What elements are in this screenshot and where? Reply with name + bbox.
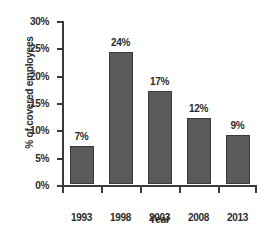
y-tick-20: 20% — [57, 76, 62, 78]
x-tick-boundary-1 — [101, 187, 103, 193]
y-tick-10: 10% — [57, 130, 62, 132]
bar-chart: % of covered employees 30% 25% 20% 15% — [0, 0, 266, 240]
y-tick-5: 5% — [57, 158, 62, 160]
x-axis-line — [62, 185, 257, 187]
bar-value-1998: 24% — [111, 37, 130, 48]
y-tick-25: 25% — [57, 48, 62, 50]
bar-1993[interactable] — [70, 146, 94, 185]
y-tick-label-30: 30% — [30, 16, 49, 27]
plot-area: 30% 25% 20% 15% 10% 5% — [62, 21, 257, 186]
bar-value-2013: 9% — [231, 120, 245, 131]
y-axis-line — [62, 21, 64, 187]
y-tick-label-15: 15% — [30, 98, 49, 109]
bar-value-2008: 12% — [189, 103, 208, 114]
bar-2013[interactable] — [226, 135, 250, 185]
x-tick-boundary-2 — [140, 187, 142, 193]
bar-2003[interactable] — [148, 91, 172, 185]
y-tick-30: 30% — [57, 21, 62, 23]
bar-1998[interactable] — [109, 52, 133, 184]
x-tick-boundary-4 — [218, 187, 220, 193]
y-tick-label-20: 20% — [30, 70, 49, 81]
y-tick-label-5: 5% — [35, 152, 49, 163]
y-axis-title: % of covered employees — [24, 13, 35, 173]
y-tick-label-10: 10% — [30, 125, 49, 136]
bar-value-1993: 7% — [75, 131, 89, 142]
x-tick-boundary-3 — [179, 187, 181, 193]
x-tick-boundary-0 — [62, 187, 64, 193]
y-tick-label-25: 25% — [30, 43, 49, 54]
bar-2008[interactable] — [187, 118, 211, 184]
y-tick-label-0: 0% — [35, 180, 49, 191]
x-axis-title: Year — [62, 214, 257, 225]
x-tick-boundary-5 — [255, 187, 257, 193]
bar-value-2003: 17% — [150, 76, 169, 87]
y-tick-15: 15% — [57, 103, 62, 105]
